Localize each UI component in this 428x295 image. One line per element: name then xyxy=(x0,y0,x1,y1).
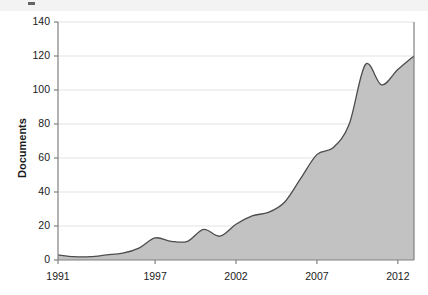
area-chart xyxy=(0,0,428,295)
y-tick-label: 20 xyxy=(16,219,50,231)
x-tick-label: 2012 xyxy=(382,270,414,282)
figure-container: Documents 020406080100120140 19911997200… xyxy=(0,0,428,295)
x-tick-label: 1997 xyxy=(139,270,171,282)
y-tick-label: 100 xyxy=(16,83,50,95)
y-tick-label: 0 xyxy=(16,253,50,265)
y-tick-label: 40 xyxy=(16,185,50,197)
y-tick-label: 60 xyxy=(16,151,50,163)
x-tick-label: 2002 xyxy=(220,270,252,282)
y-tick-label: 140 xyxy=(16,15,50,27)
y-tick-label: 120 xyxy=(16,49,50,61)
x-tick-label: 1991 xyxy=(42,270,74,282)
y-tick-label: 80 xyxy=(16,117,50,129)
x-tick-label: 2007 xyxy=(301,270,333,282)
